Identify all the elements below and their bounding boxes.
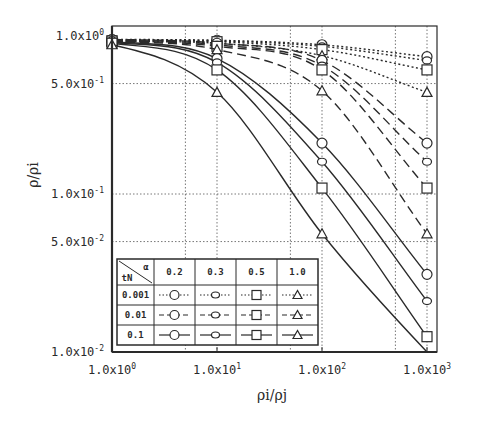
legend-tN-value: 0.001 (122, 290, 149, 300)
legend-alpha-label: α (143, 262, 149, 272)
diamond-marker-icon (423, 158, 432, 165)
circle-marker-icon (170, 291, 179, 300)
square-marker-icon (252, 291, 261, 300)
circle-marker-icon (422, 138, 432, 148)
y-tick-label: 1.0x100 (56, 28, 104, 43)
square-marker-icon (317, 65, 327, 75)
legend-alpha-value: 0.2 (166, 267, 182, 277)
diamond-marker-icon (212, 292, 220, 298)
legend-tN-value: 0.01 (125, 310, 147, 320)
y-tick-label: 5.0x10-1 (51, 76, 104, 91)
legend-alpha-value: 1.0 (289, 267, 305, 277)
circle-marker-icon (317, 138, 327, 148)
square-marker-icon (422, 65, 432, 75)
legend-alpha-value: 0.5 (248, 267, 264, 277)
legend-table: αtN0.20.30.51.00.0010.010.1 (117, 259, 318, 345)
x-axis-title: ρi/ρj (257, 387, 287, 403)
square-marker-icon (252, 331, 261, 340)
diamond-marker-icon (318, 158, 327, 165)
y-tick-label: 1.0x10-2 (51, 344, 104, 359)
diamond-marker-icon (423, 298, 432, 305)
x-tick-label: 1.0x100 (88, 362, 136, 377)
square-marker-icon (252, 311, 261, 320)
legend-tN-label: tN (122, 273, 133, 283)
diamond-marker-icon (212, 332, 220, 338)
x-tick-label: 1.0x102 (298, 362, 346, 377)
triangle-marker-icon (422, 87, 432, 96)
legend-tN-value: 0.1 (127, 330, 143, 340)
y-axis-title: ρ/ρi (25, 162, 41, 188)
diamond-marker-icon (423, 57, 432, 64)
y-tick-label: 5.0x10-2 (51, 234, 104, 249)
legend-alpha-value: 0.3 (207, 267, 223, 277)
circle-marker-icon (170, 331, 179, 340)
x-tick-label: 1.0x101 (193, 362, 241, 377)
series-line (112, 42, 427, 234)
square-marker-icon (422, 332, 432, 342)
series-line (112, 40, 427, 144)
y-axis-ticks: 1.0x1005.0x10-11.0x10-15.0x10-21.0x10-2 (51, 28, 104, 359)
square-marker-icon (422, 183, 432, 193)
square-marker-icon (212, 65, 222, 75)
circle-marker-icon (422, 269, 432, 279)
square-marker-icon (317, 183, 327, 193)
y-tick-label: 1.0x10-1 (51, 186, 104, 201)
circle-marker-icon (170, 311, 179, 320)
chart: 1.0x1005.0x10-11.0x10-15.0x10-21.0x10-2 … (0, 0, 482, 425)
x-tick-label: 1.0x103 (403, 362, 451, 377)
diamond-marker-icon (212, 312, 220, 318)
series-line (112, 41, 427, 188)
